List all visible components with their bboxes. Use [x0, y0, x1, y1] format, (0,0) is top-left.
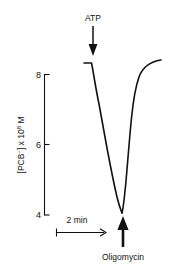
- annotation-oligomycin-label: Oligomycin: [102, 252, 144, 262]
- y-axis-title-group: [PCB−] x 108 M: [16, 117, 26, 174]
- trace-plot: 8 6 4 [PCB−] x 108 M ATP Oligomycin: [0, 0, 172, 271]
- scale-bar-label: 2 min: [67, 215, 88, 225]
- y-axis-group: 8 6 4: [36, 70, 50, 220]
- y-axis-tick-label-4: 4: [36, 210, 41, 220]
- annotation-atp-label: ATP: [85, 13, 101, 23]
- annotation-atp: ATP: [85, 13, 101, 56]
- y-axis-title-suffix: M: [16, 117, 26, 126]
- annotation-oligomycin: Oligomycin: [102, 216, 144, 262]
- annotation-oligomycin-arrow-head: [117, 216, 128, 230]
- y-axis-title-middle: ] x 10: [16, 129, 26, 150]
- scale-bar-group: 2 min: [56, 215, 106, 237]
- annotation-atp-arrow-head: [89, 44, 98, 56]
- y-axis-tick-label-8: 8: [36, 70, 41, 80]
- data-trace-line: [84, 60, 161, 213]
- figure-container: 8 6 4 [PCB−] x 108 M ATP Oligomycin: [0, 0, 172, 271]
- svg-text:[PCB−] x 108 M: [PCB−] x 108 M: [16, 117, 26, 174]
- y-axis-title-prefix: [PCB: [16, 153, 26, 173]
- y-axis-tick-label-6: 6: [36, 140, 41, 150]
